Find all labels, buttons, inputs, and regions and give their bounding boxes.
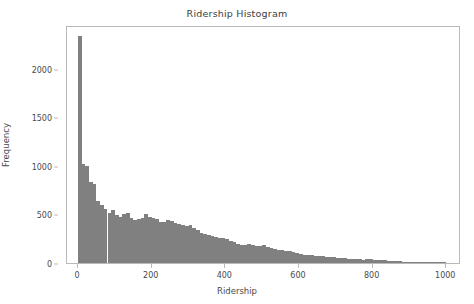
- x-axis: Ridership 02004006008001000: [0, 264, 474, 304]
- y-tick-mark: [54, 118, 58, 119]
- x-tick-label: 600: [290, 271, 305, 280]
- y-tick-label: 2000: [32, 65, 52, 74]
- y-tick-mark: [54, 166, 58, 167]
- chart-title: Ridership Histogram: [0, 8, 474, 19]
- y-tick-label: 1000: [32, 162, 52, 171]
- y-tick-mark: [54, 69, 58, 70]
- x-tick-label: 800: [364, 271, 379, 280]
- plot-area: [66, 26, 460, 264]
- y-axis-label: Frequency: [1, 123, 11, 167]
- figure: Ridership Histogram Frequency 0500100015…: [0, 0, 474, 304]
- x-tick-mark: [151, 264, 152, 268]
- y-tick-label: 500: [37, 211, 52, 220]
- x-tick-mark: [372, 264, 373, 268]
- x-tick-mark: [298, 264, 299, 268]
- x-axis-label: Ridership: [0, 286, 474, 296]
- y-tick-mark: [54, 215, 58, 216]
- histogram-bars: [67, 27, 459, 263]
- x-tick-label: 0: [74, 271, 79, 280]
- histogram-bar: [443, 262, 447, 263]
- x-tick-label: 1000: [435, 271, 455, 280]
- x-tick-mark: [77, 264, 78, 268]
- x-tick-mark: [224, 264, 225, 268]
- y-tick-label: 1500: [32, 114, 52, 123]
- x-tick-label: 200: [143, 271, 158, 280]
- x-tick-mark: [445, 264, 446, 268]
- y-axis: Frequency 0500100015002000: [0, 0, 66, 304]
- x-tick-label: 400: [217, 271, 232, 280]
